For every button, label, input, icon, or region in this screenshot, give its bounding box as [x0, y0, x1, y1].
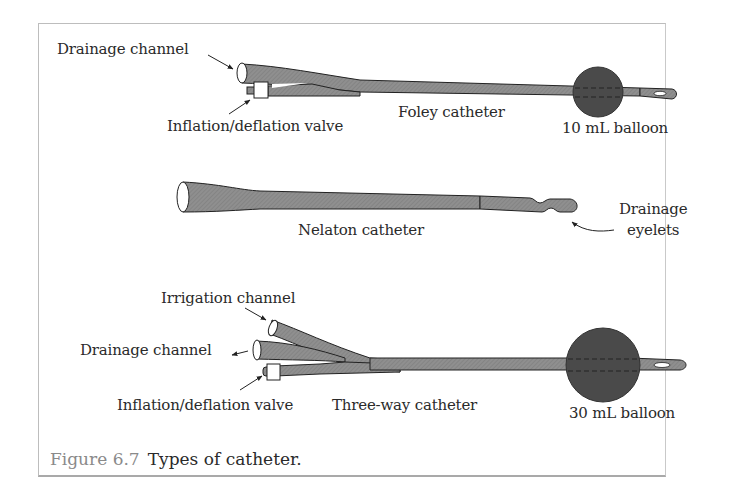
nelaton-funnel-opening	[177, 182, 189, 212]
foley-valve-label: Inflation/deflation valve	[167, 117, 343, 135]
three-way-drainage-opening	[253, 340, 261, 360]
figure-caption-text: Types of catheter.	[148, 449, 302, 469]
irrigation-arrow	[245, 308, 266, 320]
foley-valve	[254, 82, 268, 98]
catheter-illustration	[0, 0, 741, 501]
figure-number: Figure 6.7	[50, 449, 140, 469]
foley-catheter-name: Foley catheter	[398, 103, 505, 121]
nelaton-eyelets-label-line2: eyelets	[627, 221, 679, 239]
foley-drainage-opening	[237, 63, 247, 83]
three-way-drainage-channel-label: Drainage channel	[80, 341, 212, 359]
foley-drainage-arrow	[208, 55, 233, 69]
three-way-balloon	[566, 328, 640, 402]
foley-balloon	[573, 67, 623, 117]
foley-balloon-label: 10 mL balloon	[562, 119, 668, 137]
irrigation-channel-label: Irrigation channel	[161, 289, 295, 307]
three-way-catheter-drawing	[253, 319, 686, 402]
nelaton-eyelets-arrow	[572, 222, 614, 231]
three-way-catheter-name: Three-way catheter	[332, 396, 477, 414]
nelaton-catheter-name: Nelaton catheter	[298, 221, 424, 239]
three-way-valve-arrow	[240, 376, 262, 390]
foley-valve-arrow	[229, 100, 250, 114]
foley-drainage-channel-label: Drainage channel	[57, 40, 189, 58]
three-way-valve-label: Inflation/deflation valve	[117, 396, 293, 414]
figure-caption: Figure 6.7Types of catheter.	[50, 449, 302, 469]
three-way-valve	[267, 364, 280, 380]
nelaton-catheter-drawing	[177, 182, 577, 212]
three-way-balloon-label: 30 mL balloon	[569, 404, 675, 422]
nelaton-eyelets-label-line1: Drainage	[619, 200, 687, 218]
three-way-drainage-arrow	[232, 351, 248, 355]
